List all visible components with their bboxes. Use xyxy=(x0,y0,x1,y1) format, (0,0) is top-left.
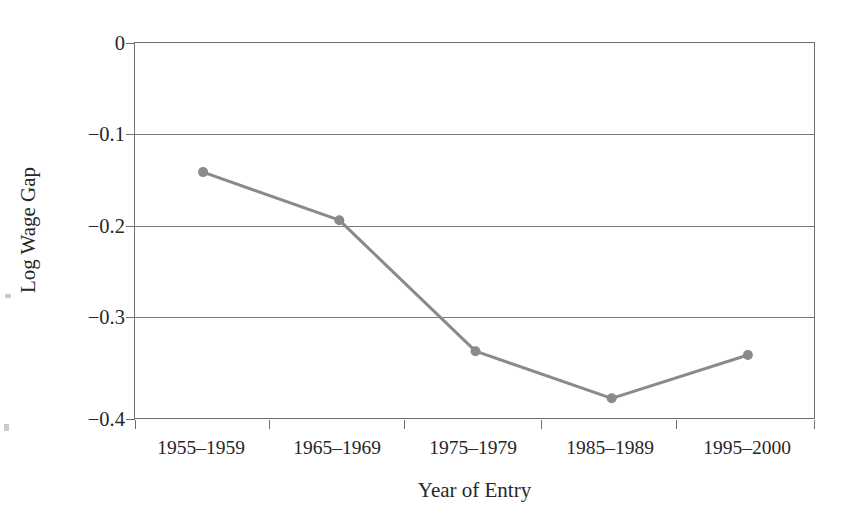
x-tick-mark-1 xyxy=(269,420,270,429)
x-tick-mark-2 xyxy=(404,420,405,429)
series-markers xyxy=(198,167,753,403)
x-tick-label-1985-1989: 1985–1989 xyxy=(566,438,654,458)
scan-artifact-upper xyxy=(5,294,11,298)
series-line xyxy=(203,172,748,398)
x-tick-label-1975-1979: 1975–1979 xyxy=(429,438,517,458)
gridline-y--0.1 xyxy=(135,134,814,135)
data-point xyxy=(198,167,208,177)
x-tick-mark-5 xyxy=(814,420,815,429)
figure-canvas: Log Wage Gap 0 −0.1 −0.2 −0.3 −0.4 1955–… xyxy=(0,0,861,524)
y-tick-mark--0.1 xyxy=(126,134,135,135)
x-axis-title: Year of Entry xyxy=(134,478,815,503)
y-tick-mark-0 xyxy=(126,43,135,44)
data-point xyxy=(607,393,617,403)
data-point xyxy=(471,346,481,356)
gridline-y--0.3 xyxy=(135,317,814,318)
gridline-y--0.2 xyxy=(135,226,814,227)
data-point xyxy=(334,215,344,225)
plot-area: 0 −0.1 −0.2 −0.3 −0.4 1955–1959 1965–196… xyxy=(134,42,815,419)
x-tick-mark-0 xyxy=(135,420,136,429)
x-tick-mark-3 xyxy=(541,420,542,429)
y-tick-mark--0.3 xyxy=(126,317,135,318)
x-tick-mark-4 xyxy=(676,420,677,429)
y-tick-label--0.4: −0.4 xyxy=(5,409,125,430)
y-tick-label-0: 0 xyxy=(5,33,125,54)
series-log-wage-gap xyxy=(135,43,816,420)
x-tick-label-1995-2000: 1995–2000 xyxy=(703,438,791,458)
y-tick-label--0.1: −0.1 xyxy=(5,124,125,145)
x-tick-label-1965-1969: 1965–1969 xyxy=(293,438,381,458)
y-tick-label--0.2: −0.2 xyxy=(5,216,125,237)
y-tick-label--0.3: −0.3 xyxy=(5,307,125,328)
data-point xyxy=(743,350,753,360)
x-tick-label-1955-1959: 1955–1959 xyxy=(157,438,245,458)
y-tick-mark--0.2 xyxy=(126,226,135,227)
y-tick-mark--0.4 xyxy=(126,419,135,420)
